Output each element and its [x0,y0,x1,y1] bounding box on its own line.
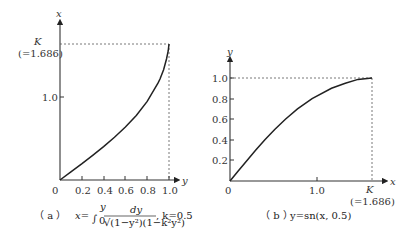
chart-a-curve [60,44,169,180]
chart-a-caption: （ a ） x= ∫ y 0 dy √(1−y²)(1−k²y²) , k=0.… [34,201,193,228]
chart-b: y x 0.2 0.4 0.6 0.8 1.0 0 1.0 K (=1.686)… [212,46,396,221]
chart-a-origin: 0 [52,185,58,196]
svg-text:x=: x= [75,210,89,221]
chart-a-xlabel: y [181,175,188,186]
chart-a-xtick-label: 0.6 [118,185,134,196]
chart-a-xtick-label: 0.2 [75,185,91,196]
chart-a-k-label: K [33,36,42,47]
chart-b-ylabel: y [226,46,233,57]
chart-b-ytick-label: 1.0 [212,73,228,84]
svg-text:∫: ∫ [92,213,97,224]
chart-b-k-value: (=1.686) [350,196,395,207]
chart-a-xticks [82,176,169,180]
chart-b-ytick-label: 0.6 [212,114,228,125]
chart-b-origin: 0 [225,185,231,196]
svg-text:（ b ）: （ b ） [260,210,293,221]
chart-b-xlabel: x [390,176,396,187]
chart-a-ylabel: x [56,8,62,19]
chart-a-ytick-label: 1.0 [42,92,58,103]
svg-text:y=sn(x, 0.5): y=sn(x, 0.5) [289,210,351,221]
chart-b-ytick-label: 0.8 [212,94,228,105]
svg-text:dy: dy [130,204,142,215]
svg-text:（ a ）: （ a ） [34,210,66,221]
chart-a-xtick-label: 0.8 [140,185,156,196]
chart-b-ytick-label: 0.4 [212,135,228,146]
chart-b-yticks [230,78,234,160]
svg-text:y: y [99,201,106,212]
figure: x y K (=1.686) 1.0 0 0.2 0.4 0.6 0.8 1.0… [0,0,409,238]
chart-a: x y K (=1.686) 1.0 0 0.2 0.4 0.6 0.8 1.0… [18,8,193,228]
chart-b-curve [230,78,372,181]
svg-text:, k=0.5: , k=0.5 [156,210,193,221]
chart-a-xtick-label: 1.0 [162,185,178,196]
chart-a-xtick-label: 0.4 [97,185,113,196]
chart-a-k-value: (=1.686) [18,48,63,59]
chart-b-ytick-label: 0.2 [212,155,228,166]
chart-b-k-label: K [365,184,374,195]
chart-b-caption: （ b ） y=sn(x, 0.5) [260,210,351,221]
chart-b-xtick-label: 1.0 [309,185,325,196]
